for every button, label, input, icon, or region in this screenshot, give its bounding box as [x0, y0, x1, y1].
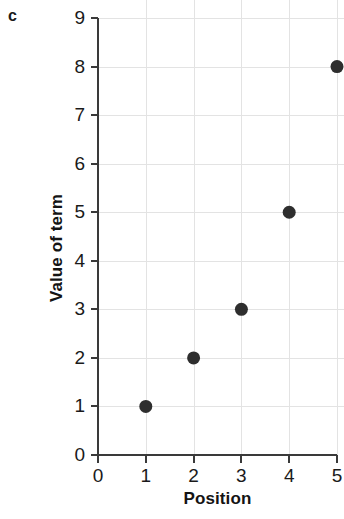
x-tick-label: 0	[93, 465, 104, 486]
x-tick-label: 5	[332, 465, 343, 486]
x-axis-tick-labels: 012345	[93, 465, 343, 486]
x-tick-label: 3	[236, 465, 247, 486]
gridlines	[98, 0, 344, 455]
x-tick-label: 1	[141, 465, 152, 486]
y-tick-label: 8	[74, 56, 85, 77]
axes	[98, 18, 337, 455]
scatter-chart-figure: c 0123456789 012345 Value of term Positi…	[0, 0, 344, 519]
data-point-marker	[187, 351, 200, 364]
data-point-marker	[283, 206, 296, 219]
y-axis-tick-labels: 0123456789	[74, 7, 85, 465]
data-point-marker	[331, 60, 344, 73]
y-axis-label: Value of term	[47, 148, 67, 348]
y-tick-label: 5	[74, 201, 85, 222]
y-tick-label: 3	[74, 298, 85, 319]
y-tick-label: 2	[74, 347, 85, 368]
x-tick-label: 4	[284, 465, 295, 486]
y-tick-label: 9	[74, 7, 85, 28]
x-tick-label: 2	[188, 465, 199, 486]
data-point-marker	[235, 303, 248, 316]
y-tick-label: 7	[74, 104, 85, 125]
data-point-marker	[139, 400, 152, 413]
y-tick-label: 1	[74, 395, 85, 416]
y-tick-label: 4	[74, 250, 85, 271]
y-tick-label: 0	[74, 444, 85, 465]
tick-marks	[91, 18, 337, 463]
x-axis-label: Position	[98, 489, 337, 509]
y-tick-label: 6	[74, 153, 85, 174]
